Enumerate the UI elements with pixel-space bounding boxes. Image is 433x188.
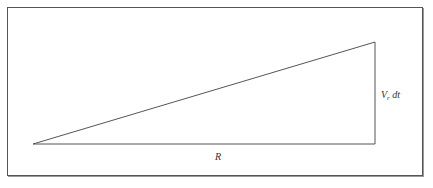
base-label: R <box>215 151 221 162</box>
label-dt: dt <box>390 89 400 100</box>
hypotenuse-line <box>33 42 375 144</box>
vertical-side-label: Vr dt <box>381 89 400 102</box>
